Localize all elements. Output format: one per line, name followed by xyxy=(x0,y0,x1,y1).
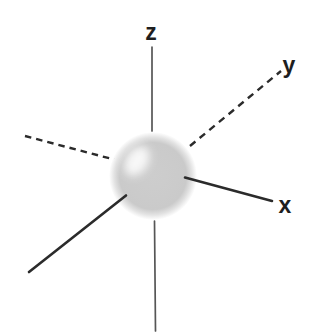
y-axis-dashed-positive xyxy=(190,71,281,146)
s-orbital-sphere xyxy=(109,132,197,220)
z-axis-line-bottom xyxy=(155,221,156,331)
y-axis-label: y xyxy=(283,52,296,78)
z-axis-label: z xyxy=(145,19,157,45)
x-axis-label: x xyxy=(279,192,292,218)
diagram-svg: z y x xyxy=(0,0,309,335)
sphere-body xyxy=(109,132,197,220)
x-axis-line-positive xyxy=(185,178,272,202)
x-axis-line-negative xyxy=(29,196,126,273)
y-axis-dashed-negative xyxy=(25,136,114,160)
orbital-axes-diagram: z y x xyxy=(0,0,309,335)
